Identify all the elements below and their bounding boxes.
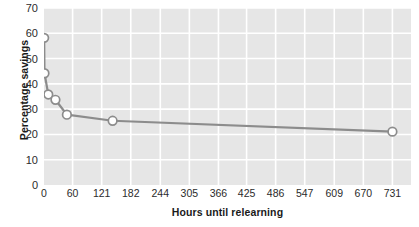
data-point-marker — [44, 34, 48, 43]
x-axis-tick-label: 731 — [372, 187, 412, 199]
plot-area — [44, 8, 411, 185]
x-axis-tick-label: 547 — [285, 187, 325, 199]
x-axis-tick-label: 366 — [198, 187, 238, 199]
data-markers — [44, 34, 397, 136]
data-point-marker — [108, 116, 117, 125]
data-point-marker — [44, 69, 49, 78]
x-axis-tick-label: 0 — [24, 187, 64, 199]
x-axis-tick-label: 182 — [111, 187, 151, 199]
x-axis-tick-label: 670 — [343, 187, 383, 199]
x-axis-tick-label: 609 — [314, 187, 354, 199]
gridlines — [44, 8, 411, 185]
y-axis-title: Percentage savings — [18, 10, 30, 170]
data-point-marker — [388, 127, 397, 136]
x-axis-tick-label: 121 — [82, 187, 122, 199]
forgetting-curve-chart: Percentage savings 010203040506070 06012… — [0, 0, 419, 227]
x-axis-title: Hours until relearning — [44, 206, 411, 218]
plot-svg — [44, 8, 411, 185]
x-axis-tick-label: 244 — [140, 187, 180, 199]
data-point-marker — [51, 95, 60, 104]
data-point-marker — [63, 110, 72, 119]
x-axis-tick-label: 425 — [227, 187, 267, 199]
x-axis-tick-label: 60 — [53, 187, 93, 199]
x-axis-tick-label: 305 — [169, 187, 209, 199]
x-axis-tick-label: 486 — [256, 187, 296, 199]
y-axis-tick-label: 0 — [0, 179, 38, 191]
